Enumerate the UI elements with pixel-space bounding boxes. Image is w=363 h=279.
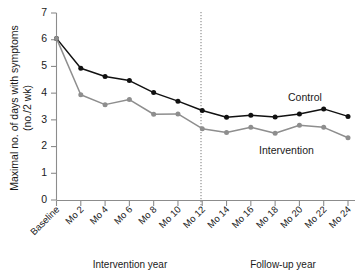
data-point-intervention-baseline [54,36,59,41]
data-point-intervention-mo-18 [273,131,278,136]
data-point-intervention-mo-16 [248,125,253,130]
data-point-control-mo-24 [346,114,351,119]
x-tick-label-mo-22: Mo 22 [302,204,328,230]
x-tick-label-mo-20: Mo 20 [278,204,304,230]
x-tick-label-mo-24: Mo 24 [326,204,352,230]
x-tick-label-mo-18: Mo 18 [254,204,280,230]
data-point-intervention-mo-22 [321,125,326,130]
y-axis-title: Maximal no. of days with symptoms (no./2… [8,25,33,191]
data-point-intervention-mo-12 [200,126,205,131]
data-point-intervention-mo-4 [103,102,108,107]
y-tick-label-2: 2 [41,139,47,151]
line-chart: Maximal no. of days with symptoms (no./2… [0,0,363,279]
data-point-control-mo-14 [224,115,229,120]
data-point-control-mo-8 [151,90,156,95]
x-tick-label-mo-10: Mo 10 [156,204,182,230]
data-point-control-mo-12 [200,108,205,113]
x-tick-label-baseline: Baseline [28,204,62,238]
data-point-control-mo-6 [127,78,132,83]
series-label-intervention: Intervention [259,144,314,156]
data-point-intervention-mo-8 [151,112,156,117]
x-tick-label-mo-6: Mo 6 [112,204,135,227]
y-tick-label-1: 1 [41,166,47,178]
data-point-intervention-mo-6 [127,97,132,102]
y-axis-title-line1: Maximal no. of days with symptoms [8,25,20,191]
data-point-control-mo-18 [273,114,278,119]
y-tick-label-4: 4 [41,86,47,98]
data-point-control-mo-22 [321,106,326,111]
series-group [54,36,351,140]
data-point-intervention-mo-10 [175,111,180,116]
series-line-intervention [57,38,349,137]
x-tick-label-mo-4: Mo 4 [87,204,110,227]
y-tick-label-0: 0 [41,193,47,205]
y-axis-ticks: 01234567 [41,6,56,205]
data-point-intervention-mo-20 [297,123,302,128]
data-point-intervention-mo-24 [346,135,351,140]
chart-figure: Maximal no. of days with symptoms (no./2… [0,0,363,279]
data-point-intervention-mo-2 [78,92,83,97]
x-axis-tick-labels: BaselineMo 2Mo 4Mo 6Mo 8Mo 10Mo 12Mo 14M… [28,204,353,238]
period-label-intervention-year: Intervention year [93,259,168,270]
y-axis-title-line2: (no./2 wk) [21,85,33,131]
axes [57,13,356,201]
y-tick-label-5: 5 [41,59,47,71]
data-point-control-mo-2 [78,66,83,71]
x-tick-label-mo-8: Mo 8 [136,204,159,227]
data-point-control-mo-20 [297,111,302,116]
x-tick-label-mo-16: Mo 16 [229,204,255,230]
x-tick-label-mo-12: Mo 12 [181,204,207,230]
data-point-control-mo-10 [175,99,180,104]
period-label-followup-year: Follow-up year [250,259,316,270]
x-tick-label-mo-2: Mo 2 [63,204,86,227]
y-tick-label-6: 6 [41,32,47,44]
series-line-control [57,38,349,117]
data-point-control-mo-16 [248,113,253,118]
data-point-intervention-mo-14 [224,130,229,135]
y-tick-label-3: 3 [41,113,47,125]
y-tick-label-7: 7 [41,6,47,18]
series-label-control: Control [288,91,322,103]
data-point-control-mo-4 [103,74,108,79]
x-tick-label-mo-14: Mo 14 [205,204,231,230]
